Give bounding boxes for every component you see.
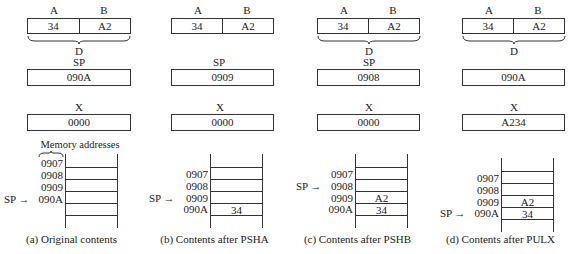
register-b-label: B: [239, 4, 255, 16]
x-label: X: [361, 101, 377, 113]
register-a-value: 34: [318, 19, 368, 33]
sp-pointer-arrow: SP →: [4, 193, 30, 205]
address-090a: 090A: [168, 203, 208, 215]
register-d-label: D: [506, 45, 522, 57]
sp-pointer-arrow: SP →: [296, 180, 322, 192]
sp-register: 090A: [27, 69, 131, 86]
sp-label: SP: [64, 56, 94, 68]
register-b-label: B: [96, 4, 112, 16]
caption: (d) Contents after PULX: [429, 233, 572, 245]
sp-pointer-arrow: SP →: [149, 192, 175, 204]
register-b-label: B: [530, 4, 546, 16]
register-a-label: A: [336, 4, 352, 16]
caption: (a) Original contents: [0, 233, 143, 245]
sp-register: 090A: [462, 69, 565, 86]
brace-d-icon: [317, 35, 421, 45]
x-register: A234: [462, 114, 565, 131]
register-ab: 34 A2: [317, 18, 420, 34]
register-ab: 34 A2: [171, 18, 274, 34]
address-0908: 0908: [168, 180, 208, 192]
sp-label: SP: [204, 56, 234, 68]
panel-a: A B 34 A2 D SP 090A X 0000 Memory addres…: [0, 0, 143, 254]
register-a-label: A: [190, 4, 206, 16]
x-register: 0000: [317, 114, 420, 131]
sp-label: SP: [354, 56, 384, 68]
address-0909: 0909: [23, 181, 63, 193]
caption: (c) Contents after PSHB: [286, 233, 429, 245]
register-b-value: A2: [513, 19, 564, 33]
register-b-label: B: [385, 4, 401, 16]
register-ab: 34 A2: [27, 18, 131, 34]
register-a-value: 34: [172, 19, 222, 33]
register-b-value: A2: [368, 19, 419, 33]
brace-d-icon: [27, 35, 131, 45]
memory-stack: 34: [210, 154, 263, 228]
x-register: 0000: [171, 114, 274, 131]
address-0907: 0907: [313, 168, 353, 180]
register-ab: 34 A2: [462, 18, 565, 34]
x-label: X: [506, 101, 522, 113]
address-0907: 0907: [168, 168, 208, 180]
x-register: 0000: [27, 114, 131, 131]
address-0907: 0907: [459, 172, 499, 184]
address-090a: 090A: [313, 203, 353, 215]
register-b-value: A2: [222, 19, 273, 33]
stack-bottom-line: [356, 215, 407, 216]
panel-d: A B 34 A2 D 090A X A234 A2 34 0907 0908 …: [429, 0, 572, 254]
sp-pointer-arrow: SP →: [440, 207, 466, 219]
memory-stack: A2 34: [501, 158, 554, 232]
memory-stack: A2 34: [355, 154, 408, 228]
register-a-label: A: [46, 4, 62, 16]
stack-bottom-line: [211, 215, 262, 216]
register-a-value: 34: [463, 19, 513, 33]
address-0907: 0907: [23, 157, 63, 169]
caption: (b) Contents after PSHA: [143, 233, 286, 245]
register-a-label: A: [481, 4, 497, 16]
address-0908: 0908: [459, 184, 499, 196]
address-0908: 0908: [23, 169, 63, 181]
memory-stack: [65, 154, 118, 228]
panel-b: A B 34 A2 SP 0909 X 0000 34 0907 0908 09…: [143, 0, 286, 254]
panel-c: A B 34 A2 D SP 0908 X 0000 A2 34 0907 09…: [286, 0, 429, 254]
x-label: X: [212, 101, 228, 113]
x-label: X: [71, 101, 87, 113]
brace-d-icon: [462, 35, 566, 45]
sp-register: 0908: [317, 69, 420, 86]
sp-register: 0909: [171, 69, 274, 86]
register-a-value: 34: [28, 19, 79, 33]
stack-bottom-line: [502, 219, 553, 220]
stack-bottom-line: [66, 215, 117, 216]
register-b-value: A2: [79, 19, 131, 33]
